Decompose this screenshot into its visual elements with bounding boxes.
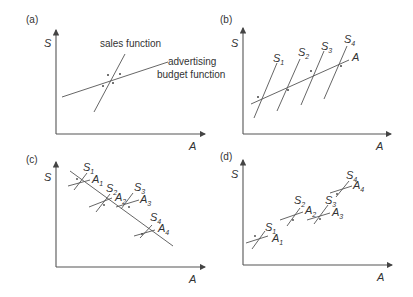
budget-function-label: budget function xyxy=(157,69,225,80)
panel-a-y-label: S xyxy=(44,37,52,49)
s1-label: S1 xyxy=(273,52,284,66)
a-line-label: A xyxy=(351,51,359,63)
panel-c-y-label: S xyxy=(44,171,52,183)
observation-point xyxy=(319,218,321,220)
observation-point xyxy=(112,82,114,84)
a4-line xyxy=(134,230,155,236)
panel-a-x-label: A xyxy=(188,140,196,152)
panel-c: (c) S A S1 A1 S2 A2 S3 A3 S4 A4 xyxy=(26,154,205,285)
observation-point xyxy=(128,206,130,208)
a1-label: A1 xyxy=(271,232,283,246)
identification-diagram: (a) S A sales function advertising budge… xyxy=(0,0,413,297)
panel-b-x-label: A xyxy=(375,140,383,152)
a3-label: A3 xyxy=(331,206,343,220)
sales-line-2 xyxy=(277,59,300,111)
panel-a: (a) S A sales function advertising budge… xyxy=(26,14,225,152)
observation-point xyxy=(76,178,78,180)
advertising-line xyxy=(251,60,349,104)
observation-point xyxy=(254,235,256,237)
panel-a-label: (a) xyxy=(26,14,38,25)
observation-point xyxy=(336,193,338,195)
s4-label: S4 xyxy=(344,33,355,47)
a1-label: A1 xyxy=(91,173,103,187)
observation-point xyxy=(107,74,109,76)
observation-point xyxy=(257,96,259,98)
s2-label: S2 xyxy=(294,194,305,208)
panel-c-x-label: A xyxy=(188,273,196,285)
a3-label: A3 xyxy=(139,193,151,207)
a4-label: A4 xyxy=(352,179,364,193)
panel-d: (d) S A S1 A1 S2 A2 S3 A3 S4 A4 xyxy=(220,151,392,283)
panel-b-y-label: S xyxy=(231,37,239,49)
s2-label: S2 xyxy=(298,46,309,60)
panel-c-label: (c) xyxy=(26,154,38,165)
panel-b: (b) S A S1 S2 S3 S4 A xyxy=(220,14,391,152)
panel-d-y-label: S xyxy=(231,168,239,180)
a2-line xyxy=(280,212,303,220)
panel-d-x-label: A xyxy=(376,271,384,283)
observation-point xyxy=(292,219,294,221)
observation-point xyxy=(141,233,143,235)
a4-line xyxy=(330,186,352,193)
sales-function-line xyxy=(94,54,125,112)
observation-point xyxy=(340,65,342,67)
a2-label: A2 xyxy=(304,204,316,218)
observation-point xyxy=(287,89,289,91)
budget-function-line xyxy=(62,62,168,97)
observation-point xyxy=(102,85,104,87)
observation-point xyxy=(310,70,312,72)
observation-point xyxy=(103,204,105,206)
s3-label: S3 xyxy=(321,40,332,54)
advertising-label: advertising xyxy=(168,56,216,67)
panel-d-label: (d) xyxy=(220,151,232,162)
sales-line-1 xyxy=(254,63,277,118)
sales-function-label: sales function xyxy=(100,38,161,49)
a4-label: A4 xyxy=(157,222,169,236)
panel-b-label: (b) xyxy=(220,14,232,25)
observation-point xyxy=(119,73,121,75)
a2-label: A2 xyxy=(114,191,126,205)
